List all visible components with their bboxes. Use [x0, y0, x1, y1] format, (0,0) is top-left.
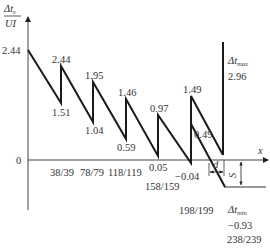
trough-label-6: 0.49	[194, 129, 212, 140]
x-tick-1: 38/39	[50, 167, 74, 178]
trough-label-4: 0.05	[149, 162, 167, 173]
y-zero-label: 0	[16, 155, 21, 166]
x-tick-2: 78/79	[80, 167, 104, 178]
trough-label-1: 1.51	[52, 107, 70, 118]
peak-label-1: 2.44	[52, 54, 71, 65]
sawtooth-diagram: Δts UI 2.44 0 2.44 1.95 1.46 0.97 1.49 1…	[0, 0, 270, 248]
s-dimension-label: S	[227, 172, 238, 178]
x-tick-3: 118/119	[108, 167, 142, 178]
x-tick-6: 238/239	[227, 234, 261, 245]
x-tick-4: 158/159	[145, 181, 179, 192]
start-value-label: 2.44	[2, 45, 21, 56]
x-axis-label: x	[257, 145, 263, 156]
y-axis-label-numerator: Δts	[3, 3, 16, 15]
peak-label-5: 1.49	[183, 84, 201, 95]
trough-label-2: 1.04	[85, 125, 104, 136]
d-dimension-label: d	[213, 159, 219, 170]
peak-label-2: 1.95	[85, 70, 103, 81]
dt-min-value: −0.93	[228, 220, 252, 231]
y-axis-label-denominator: UI	[5, 18, 17, 29]
peak-label-3: 1.46	[118, 87, 136, 98]
dt-min-label: Δtmin	[227, 204, 247, 216]
peak-label-4: 0.97	[150, 103, 168, 114]
trough-label-3: 0.59	[117, 142, 135, 153]
dt-max-label: Δtmax	[227, 55, 248, 67]
x-tick-5: 198/199	[179, 205, 213, 216]
dt-max-value: 2.96	[228, 71, 246, 82]
